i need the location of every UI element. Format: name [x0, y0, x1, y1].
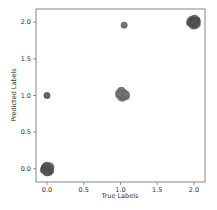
- x-axis-label: True Labels: [101, 192, 139, 200]
- data-point: [43, 170, 49, 176]
- data-point: [44, 162, 50, 168]
- x-tick-label: 0.0: [42, 186, 52, 194]
- scatter-chart: 0.00.51.01.52.0 0.00.51.01.52.0 True Lab…: [0, 0, 217, 210]
- y-tick-label: 0.5: [21, 128, 31, 136]
- data-point: [117, 90, 123, 96]
- x-tick-label: 1.5: [152, 186, 162, 194]
- data-point: [123, 91, 129, 97]
- plot-area: [36, 9, 205, 182]
- x-tick-label: 2.0: [189, 186, 199, 194]
- x-tick-label: 0.5: [79, 186, 89, 194]
- y-tick-label: 1.0: [21, 92, 31, 100]
- y-tick-label: 1.5: [21, 55, 31, 63]
- data-point: [44, 92, 50, 98]
- y-tick-label: 2.0: [21, 18, 31, 26]
- data-point: [121, 22, 127, 28]
- y-tick-label: 0.0: [21, 165, 31, 173]
- y-axis-ticks: 0.00.51.01.52.0: [21, 18, 36, 173]
- y-axis-label: Predicted Labels: [10, 68, 18, 122]
- data-point: [191, 18, 197, 24]
